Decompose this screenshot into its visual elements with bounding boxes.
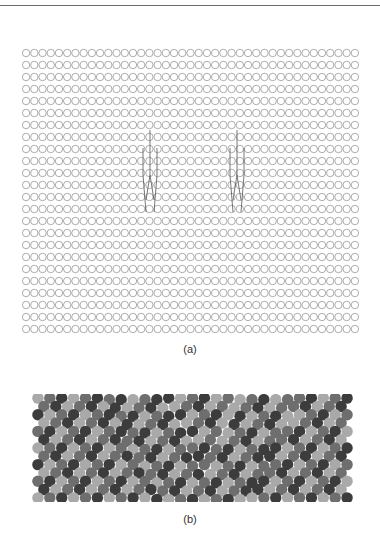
panel-a-caption: (a) — [0, 343, 380, 355]
panel-b-caption: (b) — [0, 513, 380, 525]
figure-panel-b — [32, 394, 353, 502]
figure-panel-a — [22, 47, 359, 335]
atomic-lattice-diagram — [32, 394, 353, 502]
top-rule — [0, 5, 380, 6]
circle-lattice-diagram — [22, 47, 359, 335]
